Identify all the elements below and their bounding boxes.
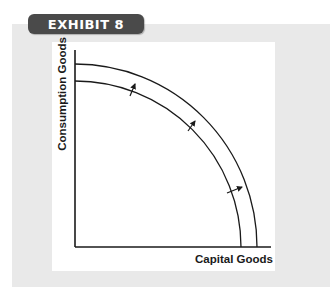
shift-arrow-icon [227, 187, 242, 193]
ppf-inner-curve [75, 81, 241, 247]
x-axis-label: Capital Goods [195, 253, 273, 265]
y-axis-label: Consumption Goods [56, 37, 68, 151]
ppf-outer-curve [75, 64, 257, 247]
ppf-chart [0, 0, 335, 298]
